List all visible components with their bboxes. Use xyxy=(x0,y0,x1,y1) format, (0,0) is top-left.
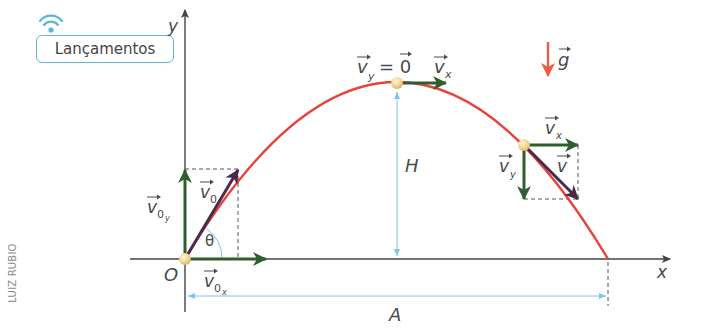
projectile-ball-origin xyxy=(179,253,191,265)
projectile-ball-peak xyxy=(391,77,403,89)
range-label: A xyxy=(388,304,401,325)
svg-text:0: 0 xyxy=(157,208,164,221)
svg-text:v: v xyxy=(545,118,556,138)
svg-text:g: g xyxy=(558,49,569,70)
v0-label: v 0 xyxy=(200,180,217,207)
svg-text:x: x xyxy=(221,288,227,297)
y-axis-label: y xyxy=(167,16,179,36)
projectile-diagram: y x O H A θ v 0 v 0 y v 0 x v xyxy=(0,0,702,331)
svg-text:v: v xyxy=(434,56,445,77)
svg-text:y: y xyxy=(164,214,170,223)
x-axis-label: x xyxy=(656,262,668,282)
v0y-label: v 0 y xyxy=(147,195,170,224)
svg-text:v: v xyxy=(557,156,568,176)
svg-text:v: v xyxy=(499,156,510,176)
wifi-icon xyxy=(40,16,62,33)
height-label: H xyxy=(405,155,419,176)
svg-text:v: v xyxy=(357,56,368,77)
v-right-label: v xyxy=(557,154,571,177)
v0x-label: v 0 x xyxy=(204,269,227,298)
v-right-vector xyxy=(524,145,578,199)
vy-zero-label: v y = 0 xyxy=(357,52,412,84)
origin-label: O xyxy=(164,264,178,285)
svg-text:= 0: = 0 xyxy=(379,56,411,77)
vx-right-label: v x xyxy=(545,116,562,142)
vx-top-label: v x xyxy=(434,55,452,82)
svg-text:0: 0 xyxy=(210,193,217,206)
svg-text:y: y xyxy=(509,169,517,180)
svg-text:0: 0 xyxy=(214,282,221,295)
svg-text:x: x xyxy=(444,68,452,81)
vy-right-label: v y xyxy=(499,154,517,181)
svg-text:x: x xyxy=(555,130,562,141)
projectile-ball-descending xyxy=(518,139,530,151)
svg-text:y: y xyxy=(367,70,375,83)
theta-label: θ xyxy=(205,232,214,250)
gravity-label: g xyxy=(558,47,571,71)
